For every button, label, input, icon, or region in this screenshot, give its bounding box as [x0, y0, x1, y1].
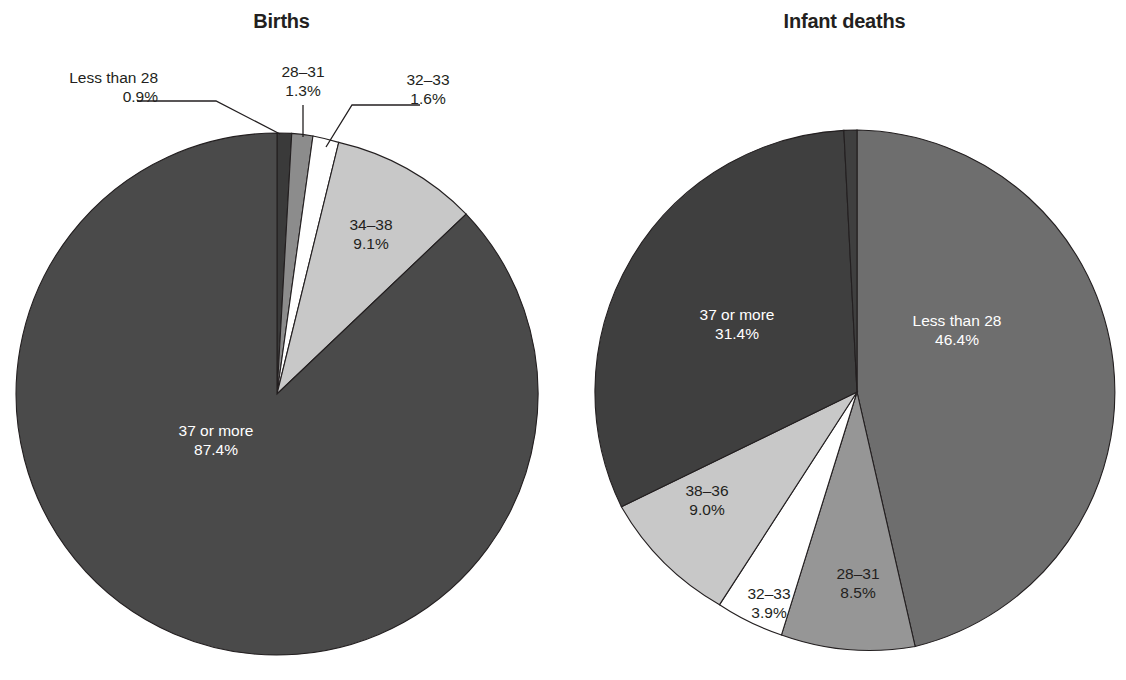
pie-label-37-or-more-pct: 87.4% — [146, 440, 286, 459]
pie-label-32-33: 32–33 1.6% — [378, 70, 478, 108]
pie-slices-births — [16, 133, 538, 655]
chart-panel-infant-deaths: Infant deaths Less than 28 46.4% — [563, 0, 1126, 680]
pie-label-34-38: 34–38 9.1% — [323, 215, 419, 253]
pie-label-less-than-28: Less than 28 46.4% — [877, 311, 1037, 349]
pie-label-less-than-28: Less than 28 0.9% — [16, 68, 158, 106]
pie-label-28-31: 28–31 8.5% — [813, 564, 903, 602]
pie-label-28-31-pct: 1.3% — [253, 81, 353, 100]
pie-label-37-or-more: 37 or more 31.4% — [667, 305, 807, 343]
pie-label-32-33-name: 32–33 — [747, 585, 790, 602]
pie-label-37-or-more-pct: 31.4% — [667, 324, 807, 343]
pie-label-28-31-name: 28–31 — [836, 565, 879, 582]
pie-label-less-than-28-pct: 0.9% — [16, 87, 158, 106]
pie-label-28-31-pct: 8.5% — [813, 583, 903, 602]
leader-line-32-33 — [326, 105, 420, 147]
pie-label-less-than-28-pct: 46.4% — [877, 330, 1037, 349]
pie-label-less-than-28-name: Less than 28 — [913, 312, 1002, 329]
chart-panel-births: Births Less than 2 — [0, 0, 563, 680]
leader-line-less-than-28 — [137, 101, 280, 134]
pie-label-34-38-name: 34–38 — [349, 216, 392, 233]
pie-label-28-31: 28–31 1.3% — [253, 62, 353, 100]
pie-label-38-36-name: 38–36 — [685, 482, 728, 499]
pie-label-28-31-name: 28–31 — [281, 63, 324, 80]
pie-label-less-than-28-name: Less than 28 — [69, 69, 158, 86]
pie-label-32-33-pct: 3.9% — [724, 603, 814, 622]
pie-label-32-33-pct: 1.6% — [378, 89, 478, 108]
pie-label-37-or-more: 37 or more 87.4% — [146, 421, 286, 459]
pie-label-32-33-name: 32–33 — [406, 71, 449, 88]
pie-chart-figure: Births Less than 2 — [0, 0, 1126, 680]
pie-label-37-or-more-name: 37 or more — [700, 306, 775, 323]
pie-label-38-36-pct: 9.0% — [659, 500, 755, 519]
pie-label-37-or-more-name: 37 or more — [179, 422, 254, 439]
pie-label-34-38-pct: 9.1% — [323, 234, 419, 253]
pie-label-38-36: 38–36 9.0% — [659, 481, 755, 519]
pie-label-32-33: 32–33 3.9% — [724, 584, 814, 622]
